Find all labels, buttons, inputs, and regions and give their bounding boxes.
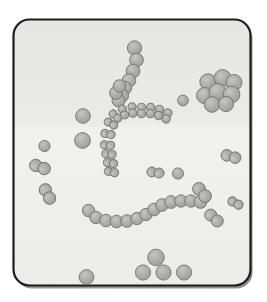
cell <box>113 80 126 93</box>
cell <box>135 265 150 280</box>
cell <box>178 95 189 106</box>
cell <box>204 97 220 113</box>
diplococcus-pair <box>137 103 145 117</box>
diplococcus-pair <box>100 140 115 149</box>
figure-root <box>0 0 267 302</box>
cell <box>146 109 155 118</box>
cell <box>75 133 91 149</box>
cell <box>218 96 233 111</box>
cell <box>108 150 117 159</box>
cell <box>137 110 145 118</box>
cell <box>79 270 94 285</box>
cell <box>76 109 91 124</box>
cell <box>148 249 165 266</box>
cell <box>39 140 50 151</box>
diplococcus-pair <box>146 103 155 118</box>
cell <box>106 141 115 150</box>
cell <box>176 265 191 280</box>
cell <box>172 168 183 179</box>
cell <box>156 265 171 280</box>
microscope-field-illustration <box>0 0 267 302</box>
diplococcus-pair <box>101 149 116 159</box>
